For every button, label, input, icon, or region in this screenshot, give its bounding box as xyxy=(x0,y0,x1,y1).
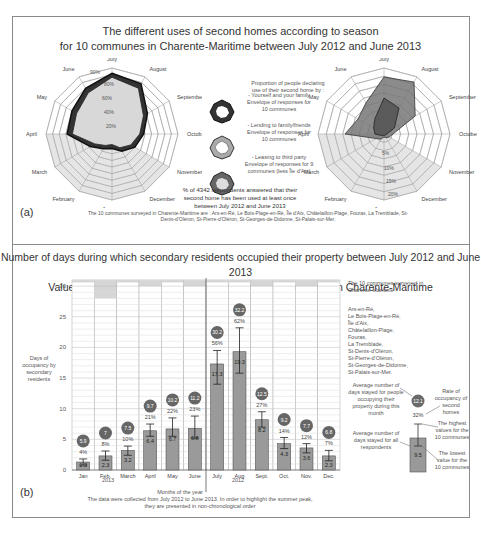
commune-item: Île d'Aix, xyxy=(348,320,458,327)
svg-text:60%: 60% xyxy=(102,95,113,101)
svg-text:27%: 27% xyxy=(256,402,267,408)
commune-item: Fouras, xyxy=(348,334,458,341)
svg-text:October: October xyxy=(187,131,202,137)
svg-text:8%: 8% xyxy=(102,441,110,447)
svg-text:56%: 56% xyxy=(212,340,223,346)
panel-divider xyxy=(12,244,469,245)
svg-text:June: June xyxy=(63,66,75,72)
svg-text:December: December xyxy=(422,196,448,202)
svg-text:10: 10 xyxy=(59,406,66,412)
svg-text:15: 15 xyxy=(59,375,66,381)
svg-text:April: April xyxy=(145,473,156,479)
family-envelope-icon xyxy=(210,100,234,123)
panel-a-title: The different uses of second homes accor… xyxy=(0,24,481,54)
svg-text:90%: 90% xyxy=(90,69,101,75)
svg-text:30.2: 30.2 xyxy=(212,329,222,335)
svg-text:March: March xyxy=(32,169,47,175)
svg-text:October: October xyxy=(459,131,477,137)
svg-text:12.1: 12.1 xyxy=(413,398,423,404)
svg-text:30: 30 xyxy=(59,283,66,289)
svg-text:14%: 14% xyxy=(279,428,290,434)
commune-item: St-Palais-sur-Mer. xyxy=(348,369,458,376)
x-axis-label: Months of the year xyxy=(130,489,230,496)
key-high-desc: The highest values for the 10 communes xyxy=(434,420,470,441)
y-axis-label: Days of occupancy by secondary residents xyxy=(18,355,60,383)
year-2012-label: 2012 xyxy=(208,477,268,484)
svg-text:6.8: 6.8 xyxy=(325,429,332,435)
panel-b-label: (b) xyxy=(20,486,33,498)
key-rate-desc: Rate of occupancy of second homes xyxy=(434,388,468,416)
commune-item: Le Bois-Plage-en-Ré, xyxy=(348,313,458,320)
svg-text:November: November xyxy=(177,169,202,175)
svg-text:0: 0 xyxy=(63,467,67,473)
key-circle-desc: Average number of days stayed for people… xyxy=(348,382,404,417)
svg-text:22%: 22% xyxy=(167,408,178,414)
svg-text:5%: 5% xyxy=(382,150,390,156)
svg-text:12%: 12% xyxy=(301,434,312,440)
svg-text:17.3: 17.3 xyxy=(212,371,223,377)
svg-text:10%: 10% xyxy=(122,436,133,442)
svg-text:7.5: 7.5 xyxy=(124,425,131,431)
panel-a-label: (a) xyxy=(20,206,33,218)
caption-line2: they are presented in non-chronological … xyxy=(40,503,360,510)
svg-text:7%: 7% xyxy=(325,440,333,446)
commune-item: Ars-en-Ré, xyxy=(348,306,458,313)
svg-text:May: May xyxy=(167,473,178,479)
year-2013-label: 2013 xyxy=(78,477,138,484)
radar-chart-family-use: JulyAugustSeptemberOctoberNovemberDecemb… xyxy=(22,58,202,208)
svg-text:80%: 80% xyxy=(104,81,115,87)
svg-text:February: February xyxy=(52,196,74,202)
bar-chart-occupancy: 0510152025301.34%5.9Jan2.38%7Feb.3.210%7… xyxy=(14,274,344,494)
key-bar-desc: Average number of days stayed for all re… xyxy=(348,430,404,451)
svg-text:6.4: 6.4 xyxy=(146,438,154,444)
svg-text:3.2: 3.2 xyxy=(124,457,132,463)
svg-text:November: November xyxy=(449,169,475,175)
lending-envelope-icon xyxy=(210,136,234,159)
svg-text:August: August xyxy=(150,66,168,72)
svg-text:6.8: 6.8 xyxy=(191,435,199,441)
commune-item: La Tremblade, xyxy=(348,341,458,348)
svg-text:9.2: 9.2 xyxy=(281,417,288,423)
svg-text:40%: 40% xyxy=(104,109,115,115)
svg-text:20%: 20% xyxy=(388,191,399,197)
svg-text:June: June xyxy=(189,473,201,479)
svg-text:January: January xyxy=(102,206,122,208)
legend-item-leasing: - Leasing to third party Envelope of res… xyxy=(244,154,314,175)
svg-text:2.3: 2.3 xyxy=(325,462,333,468)
commune-item: St-Georges-de-Didonne, xyxy=(348,362,458,369)
svg-text:23%: 23% xyxy=(189,406,200,412)
svg-text:10.2: 10.2 xyxy=(168,397,178,403)
svg-text:July: July xyxy=(379,58,389,62)
svg-text:32%: 32% xyxy=(412,412,423,418)
svg-text:25: 25 xyxy=(59,314,66,320)
svg-text:9.5: 9.5 xyxy=(414,452,422,458)
svg-text:20: 20 xyxy=(59,344,66,350)
svg-text:9.7: 9.7 xyxy=(147,403,154,409)
svg-text:December: December xyxy=(150,196,176,202)
svg-text:32.2: 32.2 xyxy=(235,307,245,313)
svg-text:April: April xyxy=(26,131,37,137)
commune-item: St-Pierre-d'Oléron, xyxy=(348,355,458,362)
svg-text:11.2: 11.2 xyxy=(190,395,200,401)
respondents-note: % of 4342 respondents answered that thei… xyxy=(178,186,302,210)
svg-text:January: January xyxy=(374,206,394,208)
svg-text:3.6: 3.6 xyxy=(303,455,311,461)
svg-text:September: September xyxy=(449,94,476,100)
svg-text:7.7: 7.7 xyxy=(303,423,310,429)
caption-line1: The data were collected from July 2012 t… xyxy=(40,496,360,503)
svg-text:May: May xyxy=(37,94,48,100)
svg-text:Oct.: Oct. xyxy=(279,473,290,479)
svg-text:7: 7 xyxy=(104,430,107,436)
svg-text:5: 5 xyxy=(63,436,67,442)
panel-a-footnote: The 10 communes surveyed in Charente-Mar… xyxy=(88,210,408,223)
svg-text:4.3: 4.3 xyxy=(280,451,288,457)
svg-text:August: August xyxy=(422,66,440,72)
key-low-desc: The lowest value for the 10 communes xyxy=(434,450,470,471)
svg-text:8.2: 8.2 xyxy=(258,427,266,433)
svg-text:62%: 62% xyxy=(234,318,245,324)
svg-text:Nov.: Nov. xyxy=(301,473,312,479)
svg-text:21%: 21% xyxy=(145,414,156,420)
panel-a-title-line2: for 10 communes in Charente-Maritime bet… xyxy=(0,39,481,54)
svg-text:2.3: 2.3 xyxy=(102,462,110,468)
svg-text:1.3: 1.3 xyxy=(79,462,87,468)
